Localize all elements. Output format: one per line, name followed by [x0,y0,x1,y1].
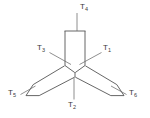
label-t3: T3 [37,44,45,52]
label-t4: T4 [80,3,88,11]
beam-left-leg-top-edge [33,66,64,85]
beam-right-leg-bottom-edge [75,77,110,95]
beam-right-leg [75,66,124,96]
label-t5-sub: 5 [13,92,16,98]
beam-left-leg [26,66,75,96]
label-t2-sub: 2 [73,104,76,110]
beam-left-leg-bottom-edge [39,77,74,95]
label-t6-sub: 6 [134,92,137,98]
label-t3-sub: 3 [42,47,45,53]
beam-top-leg [65,31,86,73]
label-t1-sub: 1 [108,47,111,53]
leader-line-t1 [80,53,102,65]
label-t4-sub: 4 [85,6,88,12]
label-t5: T5 [8,89,16,97]
label-t1: T1 [103,44,111,52]
figure-container: T1 T2 T3 T4 T5 T6 [0,0,150,118]
leader-lines [21,13,127,100]
leader-line-t3 [50,53,72,65]
beam-left-leg-end-upper [26,85,33,96]
beam-top-leg-left-bevel [65,66,75,73]
beam-top-leg-right-bevel [75,66,85,73]
label-t2: T2 [68,101,76,109]
beam-right-leg-top-edge [85,66,116,85]
label-t6: T6 [129,89,137,97]
